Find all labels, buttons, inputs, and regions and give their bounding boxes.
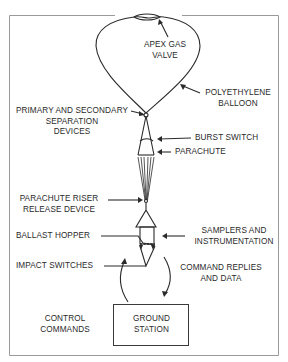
balloon-envelope bbox=[96, 17, 200, 113]
label-line: COMMAND REPLIES bbox=[174, 263, 268, 274]
control-commands-arrow bbox=[121, 262, 128, 302]
label-parachute-riser-release: PARACHUTE RISER RELEASE DEVICE bbox=[14, 194, 104, 215]
label-separation-devices: PRIMARY AND SECONDARY SEPARATION DEVICES bbox=[12, 106, 132, 138]
label-command-replies: COMMAND REPLIES AND DATA bbox=[174, 263, 268, 284]
label-ballast-hopper: BALLAST HOPPER bbox=[16, 231, 90, 242]
label-line: SEPARATION bbox=[12, 117, 132, 128]
label-line: RELEASE DEVICE bbox=[14, 205, 104, 216]
label-line: POLYETHYLENE bbox=[198, 88, 278, 99]
label-line: CONTROL bbox=[30, 314, 100, 325]
label-line: VALVE bbox=[132, 51, 198, 62]
label-impact-switches: IMPACT SWITCHES bbox=[16, 261, 93, 272]
label-burst-switch: BURST SWITCH bbox=[195, 133, 258, 144]
label-line: PARACHUTE RISER bbox=[14, 194, 104, 205]
label-ground-station: GROUND STATION bbox=[114, 314, 189, 335]
label-line: PRIMARY AND SECONDARY bbox=[12, 106, 132, 117]
label-polyethylene-balloon: POLYETHYLENE BALLOON bbox=[198, 88, 278, 109]
command-replies-arrow bbox=[164, 257, 170, 294]
label-line: SAMPLERS AND bbox=[190, 226, 278, 237]
label-line: STATION bbox=[114, 325, 189, 336]
label-line: GROUND bbox=[114, 314, 189, 325]
riser-release-device bbox=[145, 200, 148, 203]
label-line: COMMANDS bbox=[30, 325, 100, 336]
parachute bbox=[138, 116, 154, 155]
label-parachute: PARACHUTE bbox=[175, 147, 226, 158]
parachute-risers bbox=[138, 157, 154, 200]
ballast-hopper bbox=[101, 236, 155, 245]
label-line: AND DATA bbox=[174, 274, 268, 285]
label-line: DEVICES bbox=[12, 127, 132, 138]
label-line: INSTRUMENTATION bbox=[190, 237, 278, 248]
label-control-commands: CONTROL COMMANDS bbox=[30, 314, 100, 335]
label-apex-gas-valve: APEX GAS VALVE bbox=[132, 40, 198, 61]
label-line: APEX GAS bbox=[132, 40, 198, 51]
label-line: BALLOON bbox=[198, 99, 278, 110]
label-samplers-instrumentation: SAMPLERS AND INSTRUMENTATION bbox=[190, 226, 278, 247]
